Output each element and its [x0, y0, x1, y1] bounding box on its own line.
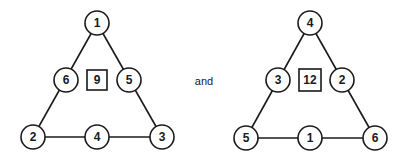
node-mid-left: 6 [54, 68, 78, 92]
svg-text:5: 5 [243, 131, 250, 145]
node-top: 1 [85, 11, 109, 35]
node-mid-right: 5 [117, 68, 141, 92]
svg-text:3: 3 [275, 73, 282, 87]
svg-text:4: 4 [307, 16, 314, 30]
node-bottom-mid: 1 [298, 126, 322, 150]
svg-text:3: 3 [159, 130, 166, 144]
svg-text:2: 2 [339, 73, 346, 87]
svg-text:6: 6 [372, 131, 379, 145]
magic-triangles-diagram: 1 6 9 5 2 4 3 and [0, 0, 407, 162]
node-bottom-left: 2 [21, 125, 45, 149]
node-bottom-right: 6 [363, 126, 387, 150]
triangle-1: 1 6 9 5 2 4 3 [21, 11, 174, 149]
node-mid-right: 2 [330, 68, 354, 92]
svg-text:6: 6 [63, 73, 70, 87]
node-top: 4 [298, 11, 322, 35]
conjunction-label: and [195, 75, 213, 87]
node-bottom-right: 3 [150, 125, 174, 149]
svg-text:1: 1 [94, 16, 101, 30]
svg-text:12: 12 [303, 73, 317, 87]
node-bottom-mid: 4 [85, 125, 109, 149]
svg-text:2: 2 [30, 130, 37, 144]
node-mid-left: 3 [266, 68, 290, 92]
svg-text:4: 4 [94, 130, 101, 144]
side-sum-box: 12 [299, 69, 321, 91]
svg-text:5: 5 [126, 73, 133, 87]
svg-text:1: 1 [307, 131, 314, 145]
node-bottom-left: 5 [234, 126, 258, 150]
side-sum-box: 9 [87, 70, 107, 90]
svg-text:9: 9 [94, 73, 101, 87]
triangle-2: 4 3 12 2 5 1 6 [234, 11, 387, 150]
